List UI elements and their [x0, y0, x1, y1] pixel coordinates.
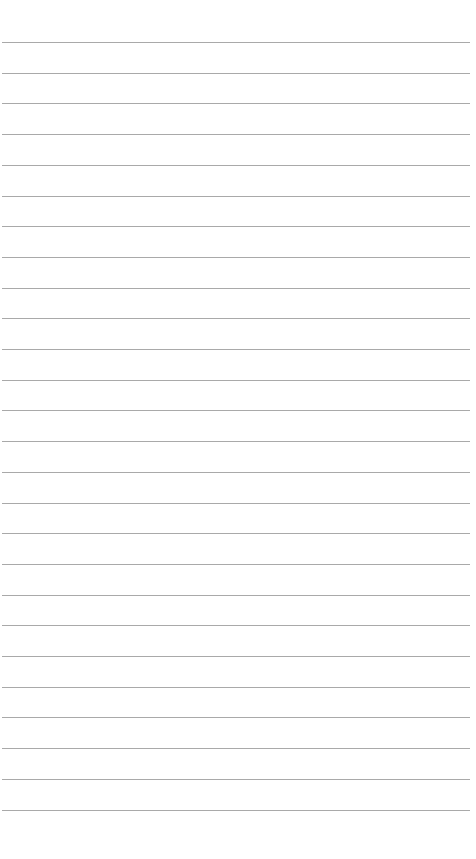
ruled-line [2, 288, 470, 289]
ruled-line [2, 564, 470, 565]
ruled-line [2, 810, 470, 811]
ruled-line [2, 134, 470, 135]
ruled-line [2, 656, 470, 657]
ruled-line [2, 318, 470, 319]
ruled-line [2, 503, 470, 504]
ruled-line [2, 257, 470, 258]
ruled-line [2, 42, 470, 43]
ruled-line [2, 472, 470, 473]
ruled-line [2, 717, 470, 718]
ruled-line [2, 625, 470, 626]
ruled-line [2, 748, 470, 749]
ruled-line [2, 595, 470, 596]
ruled-line [2, 73, 470, 74]
ruled-line [2, 441, 470, 442]
ruled-line [2, 380, 470, 381]
ruled-line [2, 226, 470, 227]
ruled-line [2, 533, 470, 534]
ruled-line [2, 349, 470, 350]
ruled-line [2, 196, 470, 197]
ruled-line [2, 103, 470, 104]
ruled-line [2, 687, 470, 688]
ruled-line [2, 410, 470, 411]
lined-paper-sheet [0, 0, 476, 859]
ruled-line [2, 165, 470, 166]
ruled-line [2, 779, 470, 780]
